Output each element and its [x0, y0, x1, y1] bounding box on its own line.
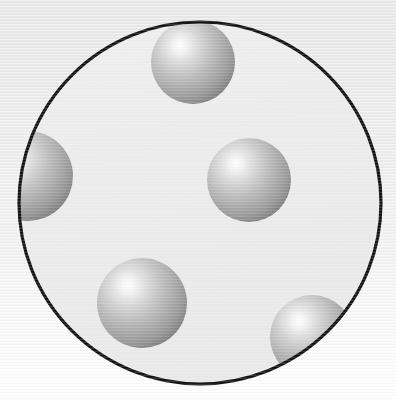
sphere-packing-diagram: [0, 0, 396, 401]
sphere-bottom-left-rim: [97, 258, 187, 348]
sphere-center: [207, 138, 291, 222]
illustration-stage: [0, 0, 396, 401]
sphere-top: [151, 20, 235, 104]
sphere-center-rim: [207, 138, 291, 222]
sphere-top-rim: [151, 20, 235, 104]
sphere-bottom-left: [97, 258, 187, 348]
